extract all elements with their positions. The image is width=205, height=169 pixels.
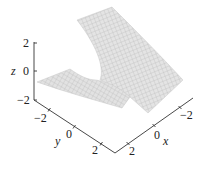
z-tick-label-2: 2 [23,37,29,49]
surface-plot [0,0,205,169]
y-tick-label-2: 2 [92,144,98,156]
z-axis-label: z [11,65,16,77]
x-tick-label-2: 2 [129,145,135,157]
y-axis-label: y [55,135,60,147]
y-tick-label-0: 0 [66,128,72,140]
z-tick-label-neg2: −2 [17,94,30,106]
x-axis-label: x [163,135,168,147]
z-tick-label-0: 0 [23,65,29,77]
y-axis [34,100,115,153]
x-tick-label-neg2: −2 [180,109,193,121]
x-tick-label-0: 0 [154,129,160,141]
z-axis [34,42,37,100]
y-tick-label-neg2: −2 [34,112,47,124]
